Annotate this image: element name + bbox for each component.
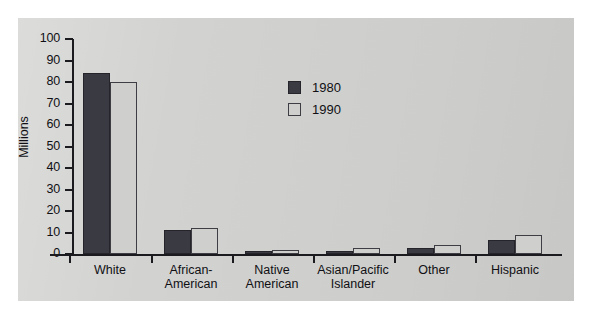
bar-1990 — [272, 250, 299, 254]
bar-1980 — [326, 251, 353, 254]
bar-chart-figure: Millions 0102030405060708090100 WhiteAfr… — [0, 0, 592, 319]
legend-label: 1980 — [312, 81, 341, 94]
legend-item-1990: 1990 — [288, 101, 341, 118]
y-axis-tick — [65, 232, 73, 234]
y-axis-tick-label: 60 — [30, 118, 60, 131]
x-axis-line — [50, 254, 562, 256]
x-axis-tick — [475, 256, 477, 263]
bar-1990 — [434, 245, 461, 254]
y-axis-tick-label-wrap: 100 — [28, 32, 60, 44]
bar-1980 — [164, 230, 191, 254]
y-axis-tick — [65, 167, 73, 169]
x-axis-tick — [394, 256, 396, 263]
x-axis-tick — [69, 256, 71, 263]
light-swatch-icon — [288, 103, 301, 116]
bar-group — [488, 39, 542, 254]
bar-1990 — [110, 82, 137, 254]
y-axis-tick — [65, 189, 73, 191]
bar-1990 — [191, 228, 218, 254]
bar-group — [83, 39, 137, 254]
y-axis-tick-label-wrap: 30 — [28, 183, 60, 195]
bar-1980 — [83, 73, 110, 254]
y-axis-tick-label-wrap: 20 — [28, 204, 60, 216]
y-axis-tick-label: 50 — [30, 140, 60, 153]
y-axis-tick-label-wrap: 80 — [28, 75, 60, 87]
y-axis-tick-label: 40 — [30, 161, 60, 174]
category-label: Hispanic — [460, 264, 570, 278]
y-axis-tick-label: 20 — [30, 204, 60, 217]
y-axis-tick-label-wrap: 10 — [28, 226, 60, 238]
legend-label: 1990 — [312, 103, 341, 116]
y-axis-tick-label: 30 — [30, 183, 60, 196]
y-axis-tick — [65, 103, 73, 105]
y-axis-tick — [65, 124, 73, 126]
y-axis-tick — [65, 38, 73, 40]
bar-1990 — [515, 235, 542, 254]
y-axis-tick-label-wrap: 0 — [28, 247, 60, 259]
y-axis-tick-label-wrap: 50 — [28, 140, 60, 152]
x-axis-tick — [151, 256, 153, 263]
y-axis-tick-label: 90 — [30, 54, 60, 67]
y-axis-tick-label-wrap: 70 — [28, 97, 60, 109]
x-axis-tick — [313, 256, 315, 263]
y-axis-tick — [65, 210, 73, 212]
bar-1980 — [245, 251, 272, 254]
bar-group — [326, 39, 380, 254]
y-axis-tick — [65, 146, 73, 148]
y-axis-tick-label: 100 — [30, 32, 60, 45]
bar-group — [245, 39, 299, 254]
y-axis-tick — [65, 81, 73, 83]
bar-1990 — [353, 248, 380, 254]
x-axis-tick — [232, 256, 234, 263]
y-axis-tick-label: 10 — [30, 226, 60, 239]
bar-group — [407, 39, 461, 254]
bar-group — [164, 39, 218, 254]
y-axis-tick — [65, 60, 73, 62]
bar-1980 — [407, 248, 434, 254]
legend-item-1980: 1980 — [288, 79, 341, 96]
bar-1980 — [488, 240, 515, 254]
dark-swatch-icon — [288, 81, 301, 94]
y-axis-tick-label-wrap: 60 — [28, 118, 60, 130]
y-axis-tick-label-wrap: 40 — [28, 161, 60, 173]
chart-legend: 1980 1990 — [288, 79, 341, 123]
y-axis-tick-label: 80 — [30, 75, 60, 88]
y-axis-tick-label: 70 — [30, 97, 60, 110]
y-axis-tick-label-wrap: 90 — [28, 54, 60, 66]
